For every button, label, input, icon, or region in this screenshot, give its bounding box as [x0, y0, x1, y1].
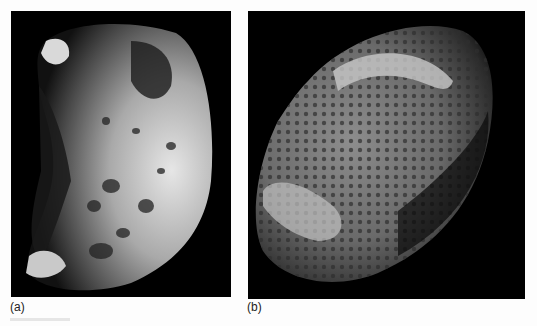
moon-a-image — [11, 11, 231, 297]
image-panel-a — [11, 11, 231, 297]
cut-off-caption — [10, 318, 70, 321]
moon-b-image — [248, 11, 525, 299]
panel-a-label: (a) — [10, 300, 25, 314]
image-panel-b — [248, 11, 525, 299]
panel-b-label: (b) — [247, 300, 262, 314]
